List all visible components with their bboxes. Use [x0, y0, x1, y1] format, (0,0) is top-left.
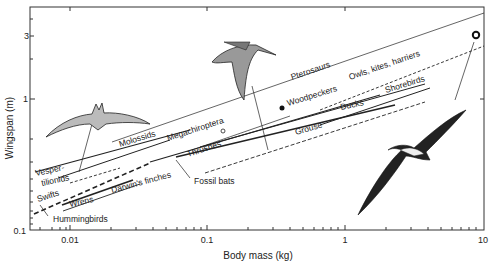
- label-molossids: Molossids: [118, 128, 157, 149]
- x-tick-label: 10: [478, 235, 488, 245]
- x-tick-label: 0.01: [61, 235, 79, 245]
- label-ducks: Ducks: [339, 97, 364, 112]
- x-axis-label: Body mass (kg): [223, 250, 292, 261]
- label-hummingbirds: Hummingbirds: [53, 214, 108, 224]
- y-axis-label: Wingspan (m): [4, 97, 15, 159]
- wingspan-chart: 0.01 0.1 1 10 0.1 1 3 Body mass (kg) Win…: [0, 0, 496, 262]
- y-ticks: [30, 19, 35, 224]
- line-ducks: [320, 88, 430, 125]
- snipe-illustration: [212, 42, 276, 100]
- callout-fossil-bats: [176, 160, 190, 178]
- x-tick-label: 0.1: [201, 235, 214, 245]
- label-pterosaurs: Pterosaurs: [289, 59, 331, 82]
- label-thrushes: Thrushes: [186, 138, 223, 158]
- line-vesper: [58, 140, 170, 178]
- bat-illustration: [46, 103, 150, 137]
- label-woodpeckers: Woodpeckers: [286, 83, 338, 108]
- x-tick-label: 1: [342, 235, 347, 245]
- open-circle-marker: [221, 129, 225, 133]
- albatross-marker: [473, 32, 479, 38]
- label-darwins-finches: Darwin's finches: [110, 169, 172, 195]
- albatross-illustration: [358, 110, 466, 215]
- label-swifts: Swifts: [36, 188, 61, 204]
- woodpecker-marker: [280, 106, 285, 111]
- y-tick-label: 3: [24, 31, 29, 41]
- y-tick-label: 1: [23, 94, 28, 104]
- callout-snipe: [252, 86, 268, 150]
- label-grouse: Grouse: [294, 120, 324, 137]
- callout-albatross: [455, 42, 474, 100]
- callout-hummingbirds: [40, 205, 48, 216]
- line-swifts: [70, 168, 120, 183]
- label-fossil-bats: Fossil bats: [194, 176, 235, 186]
- y-tick-label: 0.1: [13, 226, 26, 236]
